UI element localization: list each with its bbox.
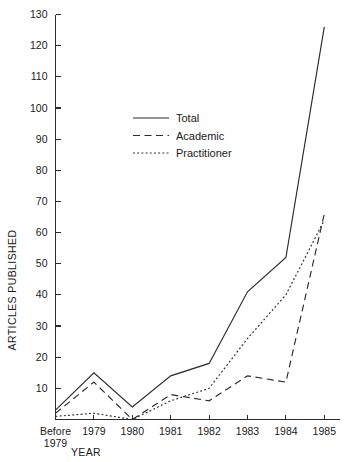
chart-legend: TotalAcademicPractitioner bbox=[133, 112, 232, 159]
x-tick-label: 1984 bbox=[274, 425, 298, 437]
x-tick-label: 1981 bbox=[159, 425, 183, 437]
x-tick-label: 1985 bbox=[313, 425, 337, 437]
series-line-practitioner bbox=[56, 220, 325, 419]
series-line-academic bbox=[56, 214, 325, 420]
y-tick-label: 10 bbox=[36, 382, 48, 394]
y-tick-label: 20 bbox=[36, 351, 48, 363]
data-series-group bbox=[56, 27, 325, 420]
line-chart: 102030405060708090100110120130 Before197… bbox=[0, 0, 364, 462]
y-tick-label: 80 bbox=[36, 164, 48, 176]
x-tick-label: Before bbox=[40, 425, 71, 437]
axes-group bbox=[56, 15, 341, 420]
x-tick-label: 1983 bbox=[236, 425, 260, 437]
y-tick-label: 90 bbox=[36, 133, 48, 145]
y-tick-label: 50 bbox=[36, 257, 48, 269]
y-tick-label: 70 bbox=[36, 195, 48, 207]
y-tick-label: 40 bbox=[36, 288, 48, 300]
chart-canvas: 102030405060708090100110120130 Before197… bbox=[0, 0, 364, 462]
x-tick-label: 1982 bbox=[197, 425, 221, 437]
legend-label-practitioner: Practitioner bbox=[176, 147, 232, 159]
legend-label-total: Total bbox=[176, 112, 199, 124]
y-tick-label: 30 bbox=[36, 320, 48, 332]
y-tick-label: 130 bbox=[30, 8, 48, 20]
y-tick-label: 100 bbox=[30, 102, 48, 114]
x-tick-label: 1980 bbox=[121, 425, 145, 437]
y-tick-label: 120 bbox=[30, 39, 48, 51]
x-tick-label: 1979 bbox=[82, 425, 106, 437]
legend-label-academic: Academic bbox=[176, 130, 225, 142]
x-axis-title: YEAR bbox=[71, 446, 101, 458]
y-axis-title: ARTICLES PUBLISHED bbox=[6, 230, 18, 351]
x-tick-label-line2: 1979 bbox=[44, 437, 68, 449]
series-line-total bbox=[56, 27, 325, 410]
y-tick-label: 60 bbox=[36, 226, 48, 238]
y-tick-label: 110 bbox=[31, 70, 48, 82]
